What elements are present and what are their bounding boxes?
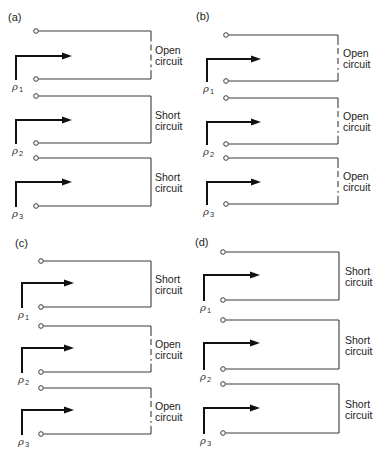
terminal-top [34,156,39,161]
terminal-top [224,33,229,38]
port-2: ρ2Shortcircuit [199,318,373,384]
arrowhead-icon [62,179,72,186]
port-1: ρ1Shortcircuit [199,250,373,315]
rho-label: ρ [17,436,24,447]
port-2: ρ2Opencircuit [202,96,371,159]
reflection-arrow [207,122,253,145]
reflection-arrow [204,343,252,370]
termination-label-line2: circuit [343,121,371,133]
arrowhead-icon [250,405,260,412]
termination-label-line2: circuit [343,58,371,70]
rho-subscript: 3 [210,210,214,219]
terminal-bottom [39,432,44,437]
rho-label: ρ [11,145,18,156]
terminal-bottom [224,202,229,207]
port-3: ρ3Shortcircuit [199,382,373,448]
reflection-arrow [207,182,253,205]
panel-d: (d)ρ1Shortcircuitρ2Shortcircuitρ3Shortci… [195,236,373,448]
arrowhead-icon [251,119,261,126]
terminal-bottom [34,204,39,209]
rho-subscript: 2 [207,375,211,384]
port-2: ρ2Opencircuit [17,324,183,387]
terminal-bottom [224,79,229,84]
rho-subscript: 1 [25,313,29,322]
terminal-bottom [221,367,226,372]
rho-label: ρ [11,208,18,219]
termination-label-line2: circuit [345,345,373,357]
rho-label: ρ [17,374,24,385]
rho-subscript: 2 [25,378,29,387]
arrowhead-icon [251,56,261,63]
circuit-terminations-diagram: (a)ρ1Opencircuitρ2Shortcircuitρ3Shortcir… [0,0,385,458]
panel-c: (c)ρ1Shortcircuitρ2Opencircuitρ3Opencirc… [15,237,183,449]
port-1: ρ1Opencircuit [202,33,371,96]
reflection-arrow [204,408,252,434]
terminal-top [39,386,44,391]
port-3: ρ3Shortcircuit [11,156,183,221]
arrowhead-icon [250,340,260,347]
terminal-bottom [34,77,39,82]
panel-label: (b) [196,10,209,22]
panel-label: (d) [195,236,208,248]
arrowhead-icon [251,179,261,186]
reflection-arrow [16,182,64,207]
rho-label: ρ [11,81,18,92]
terminal-top [39,324,44,329]
terminal-bottom [39,370,44,375]
termination-label-line2: circuit [155,411,183,423]
rho-subscript: 3 [25,440,29,449]
rho-label: ρ [199,302,206,313]
terminal-bottom [221,431,226,436]
termination-label-line2: circuit [345,409,373,421]
rho-subscript: 1 [207,306,211,315]
reflection-arrow [22,348,66,373]
panel-b: (b)ρ1Opencircuitρ2Opencircuitρ3Opencircu… [196,10,371,219]
terminal-top [224,156,229,161]
port-2: ρ2Shortcircuit [11,94,183,158]
termination-label-line2: circuit [155,55,183,67]
rho-label: ρ [17,309,24,320]
panel-label: (a) [8,11,21,23]
rho-label: ρ [202,83,209,94]
panel-label: (c) [15,237,28,249]
terminal-top [34,94,39,99]
termination-label-line2: circuit [155,349,183,361]
terminal-top [39,259,44,264]
arrowhead-icon [64,407,74,414]
rho-label: ρ [202,206,209,217]
terminal-bottom [34,141,39,146]
reflection-arrow [22,283,66,308]
port-3: ρ3Opencircuit [17,386,183,449]
rho-subscript: 2 [19,149,23,158]
rho-subscript: 1 [19,85,23,94]
panel-a: (a)ρ1Opencircuitρ2Shortcircuitρ3Shortcir… [8,11,183,221]
termination-label-line2: circuit [155,182,183,194]
terminal-top [34,29,39,34]
reflection-arrow [16,56,64,80]
arrowhead-icon [62,117,72,124]
rho-label: ρ [202,146,209,157]
termination-label-line2: circuit [155,120,183,132]
terminal-bottom [221,298,226,303]
termination-label-line2: circuit [343,181,371,193]
rho-label: ρ [199,435,206,446]
terminal-top [224,96,229,101]
reflection-arrow [22,410,66,435]
arrowhead-icon [64,345,74,352]
rho-subscript: 1 [210,87,214,96]
rho-label: ρ [199,371,206,382]
terminal-top [221,318,226,323]
reflection-arrow [16,120,64,144]
port-1: ρ1Opencircuit [11,29,183,94]
rho-subscript: 3 [19,212,23,221]
termination-label-line2: circuit [155,284,183,296]
arrowhead-icon [62,53,72,60]
termination-label-line2: circuit [345,276,373,288]
arrowhead-icon [64,280,74,287]
rho-subscript: 3 [207,439,211,448]
rho-subscript: 2 [210,150,214,159]
port-3: ρ3Opencircuit [202,156,371,219]
terminal-top [221,382,226,387]
port-1: ρ1Shortcircuit [17,259,183,322]
reflection-arrow [207,59,253,82]
